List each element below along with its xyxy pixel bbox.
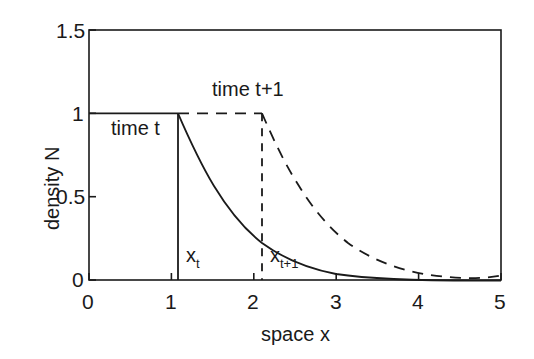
x-tick-label-5: 5: [494, 291, 506, 312]
annotation-x-t-base: x: [186, 244, 196, 266]
annotation-time-t: time t: [111, 118, 160, 138]
annotation-time-t-plus-1: time t+1: [212, 79, 284, 99]
x-tick-label-4: 4: [412, 291, 424, 312]
x-tick-label-2: 2: [247, 291, 259, 312]
x-tick-label-0: 0: [82, 291, 94, 312]
annotation-x-t: xt: [186, 245, 200, 270]
y-tick-label-1-5: 1.5: [56, 20, 85, 41]
annotation-x-t-plus-1-subscript: t+1: [280, 256, 298, 271]
y-axis-ticks: [89, 30, 96, 280]
axes-frame: [89, 30, 501, 280]
plot-area: [0, 0, 534, 359]
y-tick-label-0: 0: [72, 269, 84, 290]
annotation-x-t-plus-1-base: x: [270, 244, 280, 266]
x-tick-label-1: 1: [165, 291, 177, 312]
series-time-t-plus-1: [178, 113, 501, 280]
y-axis-title: density N: [42, 147, 62, 230]
y-tick-label-1: 1: [72, 103, 84, 124]
annotation-x-t-plus-1: xt+1: [270, 245, 298, 270]
annotation-x-t-subscript: t: [196, 256, 200, 271]
x-axis-title: space x: [261, 324, 330, 344]
figure-canvas: 1.5 1 0.5 0 0 1 2 3 4 5 space x density …: [0, 0, 534, 359]
x-tick-label-3: 3: [330, 291, 342, 312]
